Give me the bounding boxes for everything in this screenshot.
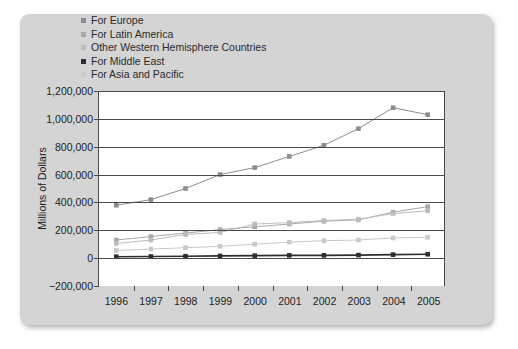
- y-tick-mark: [94, 286, 99, 287]
- legend-item-label: For Middle East: [91, 55, 165, 69]
- data-point-marker: [391, 211, 396, 216]
- legend-swatch-icon: [81, 18, 86, 23]
- x-tick-label: 1999: [209, 295, 232, 307]
- x-tick-mark: [411, 286, 412, 291]
- chart-screenshot: For EuropeFor Latin AmericaOther Western…: [0, 0, 518, 349]
- legend-swatch-icon: [81, 72, 86, 77]
- data-point-marker: [356, 253, 361, 258]
- legend-item[interactable]: Other Western Hemisphere Countries: [81, 41, 381, 55]
- legend-item-label: For Latin America: [91, 28, 173, 42]
- x-tick-mark: [238, 286, 239, 291]
- x-tick-mark: [168, 286, 169, 291]
- x-tick-label: 1997: [139, 295, 162, 307]
- data-point-marker: [114, 248, 119, 253]
- legend-item[interactable]: For Europe: [81, 14, 381, 28]
- legend-item[interactable]: For Latin America: [81, 28, 381, 42]
- y-tick-label: 0: [87, 252, 93, 264]
- data-point-marker: [425, 235, 430, 240]
- x-tick-label: 1996: [105, 295, 128, 307]
- data-point-marker: [391, 252, 396, 257]
- x-tick-mark: [342, 286, 343, 291]
- x-tick-label: 2003: [348, 295, 371, 307]
- data-point-marker: [149, 197, 154, 202]
- gridline: [99, 230, 445, 231]
- x-tick-label: 2001: [278, 295, 301, 307]
- data-point-marker: [149, 238, 154, 243]
- legend-item-label: For Europe: [91, 14, 144, 28]
- y-tick-mark: [94, 202, 99, 203]
- series-lines: [99, 91, 445, 286]
- gridline: [99, 91, 445, 92]
- data-point-marker: [425, 112, 430, 117]
- data-point-marker: [183, 186, 188, 191]
- x-tick-mark: [134, 286, 135, 291]
- data-point-marker: [287, 253, 292, 258]
- data-point-marker: [252, 242, 257, 247]
- chart-legend: For EuropeFor Latin AmericaOther Western…: [81, 14, 381, 82]
- data-point-marker: [183, 245, 188, 250]
- y-tick-label: −200,000: [49, 280, 93, 292]
- legend-item[interactable]: For Asia and Pacific: [81, 68, 381, 82]
- data-point-marker: [322, 218, 327, 223]
- legend-swatch-icon: [81, 32, 86, 37]
- data-point-marker: [252, 165, 257, 170]
- data-point-marker: [183, 232, 188, 237]
- legend-item-label: Other Western Hemisphere Countries: [91, 41, 266, 55]
- y-tick-label: 1,000,000: [46, 113, 93, 125]
- y-tick-label: 200,000: [55, 224, 93, 236]
- x-tick-label: 1998: [174, 295, 197, 307]
- legend-swatch-icon: [81, 45, 86, 50]
- y-tick-label: 800,000: [55, 141, 93, 153]
- y-tick-label: 600,000: [55, 169, 93, 181]
- legend-item-label: For Asia and Pacific: [91, 68, 184, 82]
- x-tick-label: 2002: [313, 295, 336, 307]
- gridline: [99, 258, 445, 259]
- y-tick-mark: [94, 91, 99, 92]
- data-point-marker: [252, 222, 257, 227]
- data-point-marker: [425, 204, 430, 209]
- y-tick-label: 400,000: [55, 196, 93, 208]
- series-line: [116, 237, 427, 250]
- data-point-marker: [287, 220, 292, 225]
- data-point-marker: [356, 126, 361, 131]
- y-tick-label: 1,200,000: [46, 85, 93, 97]
- legend-swatch-icon: [81, 59, 86, 64]
- data-point-marker: [114, 203, 119, 208]
- series-line: [116, 108, 427, 206]
- plot-inner: 1,200,0001,000,000800,000600,000400,0002…: [99, 91, 445, 286]
- y-tick-mark: [94, 175, 99, 176]
- data-point-marker: [425, 208, 430, 213]
- data-point-marker: [287, 240, 292, 245]
- data-point-marker: [114, 241, 119, 246]
- y-tick-mark: [94, 258, 99, 259]
- data-point-marker: [287, 154, 292, 159]
- data-point-marker: [425, 252, 430, 257]
- x-tick-label: 2004: [382, 295, 405, 307]
- data-point-marker: [149, 247, 154, 252]
- y-tick-mark: [94, 230, 99, 231]
- data-point-marker: [322, 253, 327, 258]
- x-tick-mark: [307, 286, 308, 291]
- x-tick-mark: [203, 286, 204, 291]
- plot-area: 1,200,0001,000,000800,000600,000400,0002…: [98, 91, 445, 286]
- series-line: [116, 254, 427, 257]
- gridline: [99, 202, 445, 203]
- data-point-marker: [391, 105, 396, 110]
- x-tick-mark: [377, 286, 378, 291]
- data-point-marker: [391, 236, 396, 241]
- gridline: [99, 175, 445, 176]
- legend-item[interactable]: For Middle East: [81, 55, 381, 69]
- x-tick-label: 2000: [243, 295, 266, 307]
- y-tick-mark: [94, 119, 99, 120]
- y-tick-mark: [94, 147, 99, 148]
- x-tick-label: 2005: [417, 295, 440, 307]
- data-point-marker: [322, 238, 327, 243]
- data-point-marker: [356, 217, 361, 222]
- data-point-marker: [356, 238, 361, 243]
- gridline: [99, 119, 445, 120]
- data-point-marker: [218, 244, 223, 249]
- gridline: [99, 147, 445, 148]
- x-tick-mark: [273, 286, 274, 291]
